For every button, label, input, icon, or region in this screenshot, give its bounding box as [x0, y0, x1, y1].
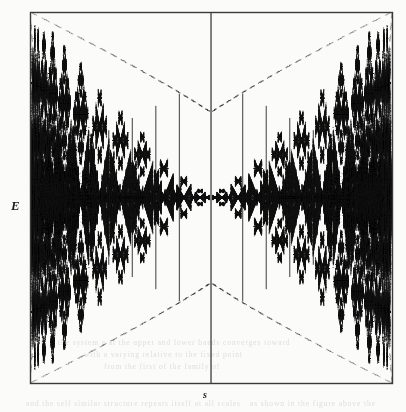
fractal-spectrum-plot: [0, 0, 406, 412]
x-axis-label: s: [203, 390, 207, 400]
y-axis-label: E: [11, 199, 20, 212]
figure-page: the system a at the upper and lower band…: [0, 0, 406, 412]
